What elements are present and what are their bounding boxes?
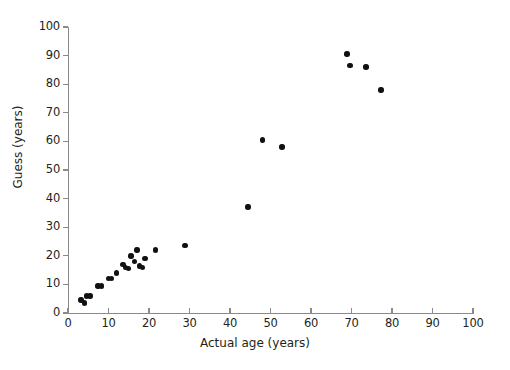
x-tick-label: 10 xyxy=(94,316,124,330)
data-point xyxy=(245,204,250,209)
x-tick-label: 50 xyxy=(256,316,286,330)
data-point xyxy=(134,247,139,252)
y-tick-label: 100 xyxy=(30,19,60,33)
x-tick-label: 40 xyxy=(215,316,245,330)
data-point xyxy=(128,253,133,258)
x-tick-label: 100 xyxy=(458,316,488,330)
data-point xyxy=(378,87,383,92)
x-axis-line xyxy=(68,313,474,314)
y-tick-label: 30 xyxy=(30,219,60,233)
x-tick-label: 70 xyxy=(337,316,367,330)
y-axis-title: Guess (years) xyxy=(11,67,25,227)
data-point xyxy=(279,144,284,149)
data-point xyxy=(153,247,158,252)
data-point xyxy=(347,63,352,68)
data-point xyxy=(344,51,349,56)
x-tick-label: 90 xyxy=(418,316,448,330)
x-tick-label: 60 xyxy=(296,316,326,330)
y-tick-label: 50 xyxy=(30,162,60,176)
x-axis-title: Actual age (years) xyxy=(0,336,510,350)
y-tick-label: 80 xyxy=(30,76,60,90)
y-tick-label: 60 xyxy=(30,133,60,147)
x-tick-label: 30 xyxy=(175,316,205,330)
scatter-chart: 0102030405060708090100 01020304050607080… xyxy=(0,0,510,370)
x-tick-label: 20 xyxy=(134,316,164,330)
y-tick-label: 40 xyxy=(30,191,60,205)
data-point xyxy=(363,64,368,69)
y-tick-label: 20 xyxy=(30,248,60,262)
y-tick-label: 10 xyxy=(30,276,60,290)
data-point xyxy=(87,293,92,298)
y-tick-label: 90 xyxy=(30,48,60,62)
x-tick-label: 80 xyxy=(377,316,407,330)
data-point xyxy=(99,283,104,288)
data-point xyxy=(142,256,147,261)
y-tick-label: 70 xyxy=(30,105,60,119)
data-point xyxy=(82,300,87,305)
data-point xyxy=(260,137,265,142)
data-point xyxy=(114,270,119,275)
x-tick-label: 0 xyxy=(53,316,83,330)
